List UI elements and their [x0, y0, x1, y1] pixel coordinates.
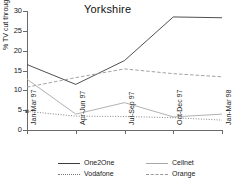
x-tick-label: Jan-Mar 98: [225, 90, 232, 125]
x-tick: [76, 130, 77, 134]
legend-label: One2One: [84, 159, 114, 166]
legend-swatch-cellnet: [146, 163, 168, 164]
y-tick-label: 15: [14, 67, 22, 75]
legend-swatch-one2one: [58, 163, 80, 164]
x-tick-label: Oct-Dec 97: [176, 90, 183, 125]
series-lines: [27, 11, 222, 130]
x-tick-label: Jan-Mar 97: [30, 90, 37, 125]
data-point-marker: [25, 110, 28, 113]
y-tick-label: 5: [18, 106, 22, 114]
y-axis-label: % TV cut through: [2, 0, 9, 50]
x-tick: [125, 130, 126, 134]
legend-label: Orange: [172, 170, 195, 177]
x-tick-label: Apr-Jun 97: [79, 91, 86, 125]
chart-legend: One2OneCellnetVodafoneOrange: [58, 163, 233, 187]
legend-label: Vodafone: [84, 170, 114, 177]
legend-label: Cellnet: [172, 159, 194, 166]
series-line-orange: [27, 69, 222, 87]
x-tick: [173, 130, 174, 134]
plot-area: 051015202530: [27, 11, 222, 130]
x-tick: [222, 130, 223, 134]
legend-swatch-orange: [146, 174, 168, 175]
line-chart: Yorkshire % TV cut through 051015202530 …: [0, 0, 239, 191]
y-tick-label: 10: [14, 87, 22, 95]
x-tick: [27, 130, 28, 134]
x-tick-label: Jul-Sep 97: [128, 92, 135, 125]
series-line-one2one: [27, 17, 222, 84]
legend-swatch-vodafone: [58, 174, 80, 175]
y-tick-label: 20: [14, 47, 22, 55]
y-tick-label: 25: [14, 27, 22, 35]
y-tick-label: 0: [18, 126, 22, 134]
series-line-cellnet: [27, 79, 222, 117]
y-tick-label: 30: [14, 7, 22, 15]
